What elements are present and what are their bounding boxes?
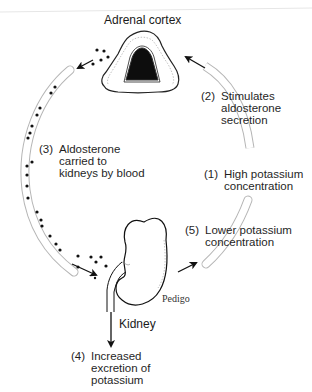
arrow-to-vessel-icon [78,60,93,68]
arrow-to-gland-icon [186,57,205,68]
artist-signature: Pedigo [162,293,190,304]
top-border-line [0,8,312,12]
diagram-artwork [0,0,312,392]
step-5-label: (5) Lower potassium concentration [185,224,292,248]
kidney-label: Kidney [119,317,156,331]
adrenal-gland-icon [102,31,179,93]
adrenal-cortex-label: Adrenal cortex [104,13,181,27]
step-1-label: (1) High potassium concentration [204,168,303,192]
step-4-label: (4) Increased excretion of potassium [71,350,150,386]
step-3-label: (3) Aldosterone carried to kidneys by bl… [39,143,145,179]
arrow-out-kidney-icon [178,263,196,272]
step-2-label: (2) Stimulates aldosterone secretion [201,90,281,126]
kidney-icon [107,218,167,312]
aldosterone-feedback-diagram: Adrenal cortex (2) Stimulates aldosteron… [0,0,312,392]
